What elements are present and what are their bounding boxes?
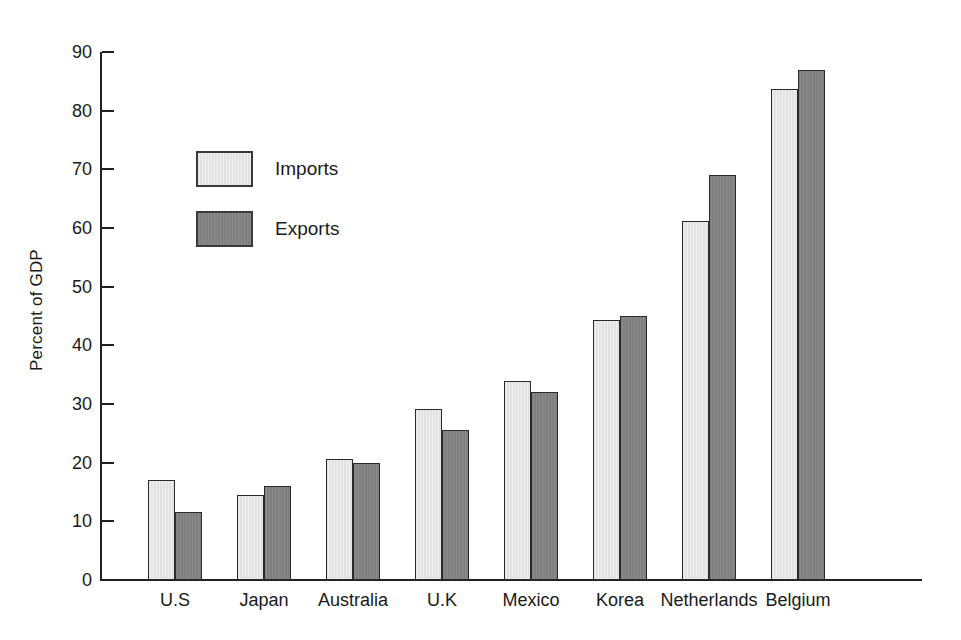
bar-japan-imports	[237, 495, 264, 580]
legend-swatch-imports	[196, 151, 253, 187]
y-axis-tick-label: 90	[54, 43, 92, 61]
bar-mexico-exports	[531, 392, 558, 580]
y-axis-tick-label-wrap: 30	[20, 395, 92, 413]
y-axis-tick-label: 10	[54, 512, 92, 530]
bar-us-imports	[148, 480, 175, 580]
y-axis-tick-label: 80	[54, 102, 92, 120]
y-axis-tick-label-wrap: 0	[20, 571, 92, 589]
y-axis-tick-label-wrap: 60	[20, 219, 92, 237]
y-axis-tick-label: 30	[54, 395, 92, 413]
y-axis-tick-label-wrap: 90	[20, 43, 92, 61]
y-axis-tick-label-wrap: 50	[20, 278, 92, 296]
legend-label-imports: Imports	[275, 158, 338, 180]
y-axis-tick-label-wrap: 10	[20, 512, 92, 530]
bar-korea-exports	[620, 316, 647, 580]
bar-australia-imports	[326, 459, 353, 580]
bar-mexico-imports	[504, 381, 531, 580]
y-axis-title: Percent of GDP	[27, 210, 47, 410]
bar-netherlands-exports	[709, 175, 736, 580]
y-axis-tick-label: 20	[54, 454, 92, 472]
y-axis-tick-label: 50	[54, 278, 92, 296]
y-axis-tick-label-wrap: 40	[20, 336, 92, 354]
y-axis-tick-label-wrap: 20	[20, 454, 92, 472]
bar-uk-exports	[442, 430, 469, 580]
bar-australia-exports	[353, 463, 380, 580]
legend-item-exports: Exports	[196, 210, 339, 248]
bar-netherlands-imports	[682, 221, 709, 580]
bar-chart: Percent of GDP 0102030405060708090 U.SJa…	[0, 0, 961, 640]
y-axis-tick-label: 40	[54, 336, 92, 354]
bar-korea-imports	[593, 320, 620, 580]
bar-belgium-imports	[771, 89, 798, 580]
bar-japan-exports	[264, 486, 291, 580]
bar-uk-imports	[415, 409, 442, 580]
y-axis-tick-label: 0	[54, 571, 92, 589]
legend-label-exports: Exports	[275, 218, 339, 240]
chart-legend: ImportsExports	[196, 150, 339, 270]
bar-us-exports	[175, 512, 202, 580]
y-axis-tick-label: 70	[54, 160, 92, 178]
legend-item-imports: Imports	[196, 150, 339, 188]
y-axis-tick-label-wrap: 70	[20, 160, 92, 178]
x-axis-label-belgium: Belgium	[728, 590, 868, 610]
y-axis-tick-label: 60	[54, 219, 92, 237]
legend-swatch-exports	[196, 211, 253, 247]
plot-area	[100, 52, 922, 580]
y-axis-tick-label-wrap: 80	[20, 102, 92, 120]
bar-belgium-exports	[798, 70, 825, 580]
